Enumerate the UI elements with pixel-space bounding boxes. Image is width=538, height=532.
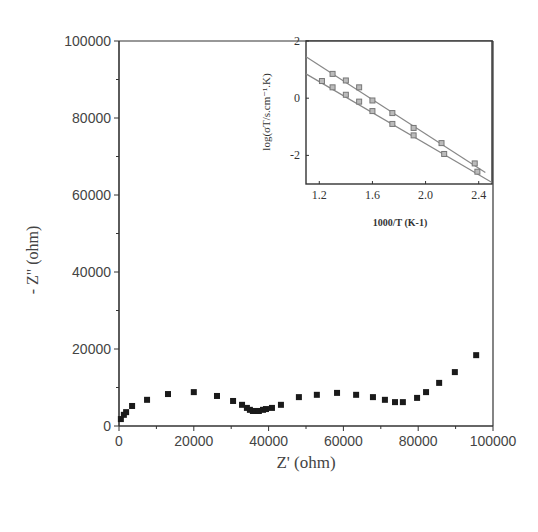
inset-data-point [442,151,447,156]
data-point [436,380,442,386]
inset-data-point [370,109,375,114]
inset-x-tick-label: 2.4 [471,188,486,202]
data-point [165,391,171,397]
inset-data-point [343,92,348,97]
inset-y-axis-label: log(σT/s.cm⁻¹.K) [260,73,273,151]
inset-y-tick-label: -2 [290,148,300,162]
data-point [144,397,150,403]
inset-x-tick-label: 1.6 [365,188,380,202]
inset-data-point [343,78,348,83]
inset-data-point [439,141,444,146]
inset-x-axis-label: 1000/T (K-1) [373,217,428,229]
data-point [452,369,458,375]
data-point [269,405,275,411]
inset-data-point [390,111,395,116]
inset-y-tick-label: 2 [294,34,300,48]
data-point [370,394,376,400]
data-point [191,389,197,395]
data-point [423,389,429,395]
main-y-tick-label: 80000 [72,110,111,126]
data-point [400,399,406,405]
data-point [392,399,398,405]
data-point [353,392,359,398]
data-point [129,403,135,409]
data-point [278,402,284,408]
data-point [382,397,388,403]
main-y-tick-label: 40000 [72,264,111,280]
inset-data-point [357,99,362,104]
inset-x-tick-label: 1.2 [312,188,327,202]
inset-data-point [330,71,335,76]
inset-data-point [411,125,416,130]
inset-data-point [370,98,375,103]
inset-data-point [330,85,335,90]
main-x-axis-label: Z' (ohm) [276,453,335,472]
impedance-figure: 0200004000060000800001000000200004000060… [0,0,538,532]
main-y-axis-label: - Z" (ohm) [24,226,42,295]
main-y-tick-label: 0 [103,418,111,434]
main-x-tick-label: 100000 [470,433,517,449]
inset-y-tick-label: 0 [294,91,300,105]
main-y-tick-label: 100000 [64,33,111,49]
data-point [334,390,340,396]
data-point [414,395,420,401]
inset-x-tick-label: 2.0 [418,188,433,202]
main-x-tick-label: 0 [115,433,123,449]
inset-frame [306,41,492,184]
inset-data-point [411,133,416,138]
data-point [296,394,302,400]
main-y-tick-label: 20000 [72,341,111,357]
data-point [314,392,320,398]
inset-arrhenius-plot: 1.21.62.02.4-202 [290,34,492,202]
main-x-tick-label: 60000 [324,433,363,449]
main-x-tick-label: 20000 [174,433,213,449]
data-point [214,393,220,399]
data-point [473,352,479,358]
main-x-tick-label: 80000 [399,433,438,449]
main-x-tick-label: 40000 [249,433,288,449]
data-point [263,406,269,412]
data-point [123,409,129,415]
inset-data-point [390,121,395,126]
data-point [230,398,236,404]
inset-data-point [357,85,362,90]
inset-data-point [475,169,480,174]
main-y-tick-label: 60000 [72,187,111,203]
inset-data-point [319,79,324,84]
inset-data-point [472,161,477,166]
